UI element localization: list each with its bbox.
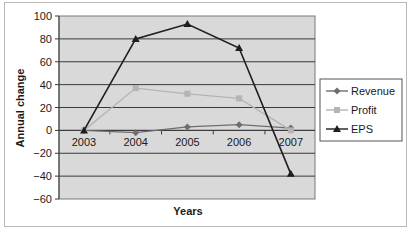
legend-label: EPS [351, 123, 373, 135]
y-tick-label: 20 [40, 102, 52, 114]
y-tick-label: −60 [33, 193, 52, 205]
x-axis-title: Years [173, 205, 202, 217]
y-axis: 100806040200−20−40−60 [33, 10, 59, 205]
legend-label: Profit [351, 104, 377, 116]
x-tick-label: 2003 [72, 136, 96, 148]
x-tick-label: 2007 [279, 136, 303, 148]
y-tick-label: 80 [40, 33, 52, 45]
y-tick-label: 40 [40, 79, 52, 91]
data-point [133, 85, 139, 91]
data-point [184, 91, 190, 97]
legend-label: Revenue [351, 85, 395, 97]
legend: RevenueProfitEPS [320, 79, 402, 141]
y-tick-label: 100 [34, 10, 52, 22]
data-point [288, 127, 294, 133]
x-tick-label: 2004 [123, 136, 147, 148]
line-chart: 100806040200−20−40−60 200320042005200620… [0, 0, 411, 230]
y-axis-title: Annual change [14, 69, 26, 148]
data-point [334, 107, 340, 113]
y-tick-label: 0 [46, 124, 52, 136]
y-tick-label: −40 [33, 170, 52, 182]
y-tick-label: −20 [33, 147, 52, 159]
data-point [236, 95, 242, 101]
x-tick-label: 2006 [227, 136, 251, 148]
y-tick-label: 60 [40, 56, 52, 68]
x-tick-label: 2005 [175, 136, 199, 148]
